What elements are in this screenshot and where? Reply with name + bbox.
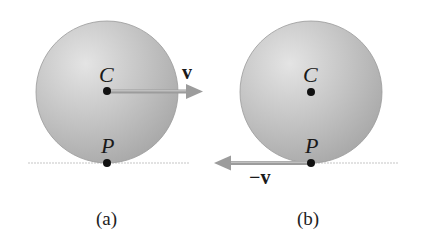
rolling-disk-diagram: C P v (a) C P −v (b) [0, 0, 422, 247]
panel-caption: (b) [297, 208, 319, 230]
center-point-dot [103, 87, 111, 95]
panel-caption: (a) [96, 208, 117, 230]
contact-label: P [100, 133, 114, 158]
velocity-label: v [182, 61, 192, 83]
contact-label: P [304, 133, 318, 158]
contact-point-dot [307, 159, 315, 167]
center-point-dot [307, 88, 315, 96]
center-label: C [303, 62, 318, 87]
reverse-velocity-label: −v [249, 166, 270, 188]
panel-a: C P v (a) [28, 21, 203, 230]
panel-b: C P −v (b) [214, 21, 398, 230]
contact-point-dot [103, 159, 111, 167]
center-label: C [99, 62, 114, 87]
